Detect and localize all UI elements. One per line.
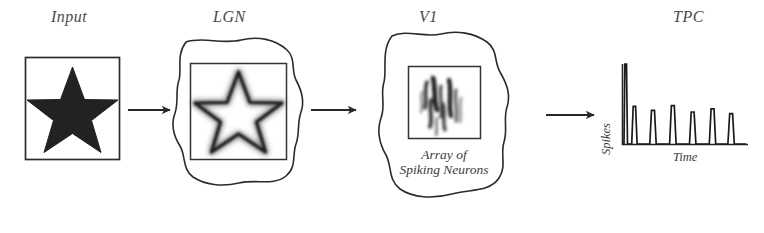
stage-label-lgn: LGN xyxy=(213,8,246,26)
stage-tpc xyxy=(622,64,748,145)
v1-caption: Array of Spiking Neurons xyxy=(399,147,488,177)
tpc-y-axis-label: Spikes xyxy=(599,123,614,155)
stage-label-v1: V1 xyxy=(419,8,438,26)
stage-lgn xyxy=(173,38,303,185)
spike-train-trace xyxy=(622,64,746,144)
stage-label-input: Input xyxy=(51,8,87,26)
v1-caption-line-1: Array of xyxy=(399,147,488,162)
diagram-canvas: Input LGN V1 TPC Array of Spiking Neuron… xyxy=(0,0,764,233)
diagram-artwork xyxy=(0,0,764,233)
stage-input xyxy=(26,58,120,160)
tpc-x-axis-label: Time xyxy=(673,150,697,165)
stage-label-tpc: TPC xyxy=(673,8,704,26)
v1-caption-line-2: Spiking Neurons xyxy=(399,162,488,177)
